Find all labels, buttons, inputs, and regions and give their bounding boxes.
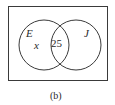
set-e-label: E [26, 28, 33, 39]
set-j-label: J [84, 28, 89, 39]
set-e-only-value: x [34, 40, 39, 51]
figure-caption: (b) [50, 91, 62, 101]
intersection-value: 25 [51, 38, 62, 49]
